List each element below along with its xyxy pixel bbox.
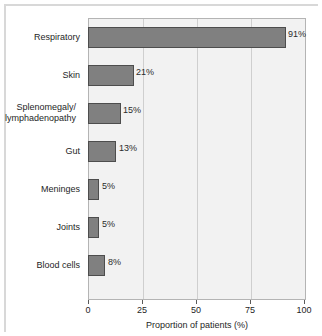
bar-row: 21% — [88, 56, 306, 94]
bar-value-meninges: 5% — [102, 181, 115, 192]
category-label-text: Meninges — [41, 184, 84, 195]
bar-value-joints: 5% — [102, 219, 115, 230]
bar-respiratory — [88, 27, 286, 48]
bar-row: 8% — [88, 246, 306, 284]
x-axis: 0 25 50 75 100 — [88, 300, 306, 305]
category-label-skin: Skin — [0, 56, 84, 94]
chart-page: Respiratory Skin Splenomegaly/ lymphaden… — [0, 0, 322, 336]
bar-value-splenomegaly-lymphadenopathy: 15% — [123, 105, 141, 116]
category-label-text: Respiratory — [34, 32, 84, 43]
horizontal-bar-chart: Respiratory Skin Splenomegaly/ lymphaden… — [0, 0, 322, 336]
category-label-respiratory: Respiratory — [0, 18, 84, 56]
category-label-text-line2: lymphadenopathy — [5, 113, 80, 124]
bar-meninges — [88, 179, 99, 200]
x-tick-label-100: 100 — [296, 305, 311, 316]
bar-row: 5% — [88, 170, 306, 208]
bar-row: 13% — [88, 132, 306, 170]
x-tick-mark-25 — [142, 300, 143, 304]
category-label-text: Skin — [62, 70, 84, 81]
category-label-text: Blood cells — [36, 260, 84, 271]
bars-layer: 91% 21% 15% 13% 5% 5% — [88, 18, 306, 300]
x-tick-label-50: 50 — [191, 305, 201, 316]
bar-splenomegaly-lymphadenopathy — [88, 103, 121, 124]
bar-row: 15% — [88, 94, 306, 132]
bar-row: 5% — [88, 208, 306, 246]
bar-blood-cells — [88, 255, 105, 276]
category-axis-labels: Respiratory Skin Splenomegaly/ lymphaden… — [0, 18, 84, 300]
category-label-gut: Gut — [0, 132, 84, 170]
category-label-splenomegaly-lymphadenopathy: Splenomegaly/ lymphadenopathy — [0, 94, 84, 132]
category-label-meninges: Meninges — [0, 170, 84, 208]
bar-value-gut: 13% — [119, 143, 137, 154]
bar-value-blood-cells: 8% — [108, 257, 121, 268]
category-label-text: Gut — [65, 146, 84, 157]
category-label-joints: Joints — [0, 208, 84, 246]
x-tick-mark-0 — [88, 300, 89, 304]
x-tick-mark-50 — [196, 300, 197, 304]
x-tick-mark-100 — [304, 300, 305, 304]
x-axis-title: Proportion of patients (%) — [88, 320, 306, 331]
x-tick-label-75: 75 — [245, 305, 255, 316]
category-label-blood-cells: Blood cells — [0, 246, 84, 284]
category-label-text-line1: Splenomegaly/ — [5, 102, 80, 113]
bar-value-respiratory: 91% — [288, 29, 306, 40]
x-tick-label-25: 25 — [137, 305, 147, 316]
bar-value-skin: 21% — [136, 67, 154, 78]
bar-row: 91% — [88, 18, 306, 56]
x-tick-mark-75 — [250, 300, 251, 304]
x-tick-label-0: 0 — [85, 305, 90, 316]
bar-joints — [88, 217, 99, 238]
category-label-text: Joints — [56, 222, 84, 233]
bar-skin — [88, 65, 134, 86]
bar-gut — [88, 141, 116, 162]
